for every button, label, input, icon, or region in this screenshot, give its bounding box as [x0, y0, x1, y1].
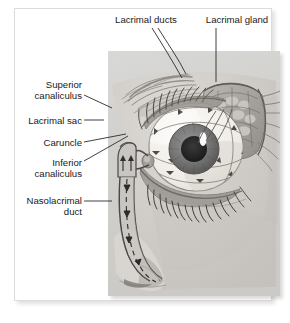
- label-inferior-canaliculus: Inferior canaliculus: [10, 157, 82, 180]
- label-lacrimal-sac: Lacrimal sac: [10, 115, 82, 126]
- label-lacrimal-gland: Lacrimal gland: [194, 14, 280, 25]
- label-caruncle: Caruncle: [10, 137, 82, 148]
- figure-card: [14, 8, 272, 301]
- figure-root: Lacrimal ducts Lacrimal gland Superior c…: [0, 0, 290, 323]
- label-superior-canaliculus: Superior canaliculus: [10, 79, 82, 102]
- corneal-highlight: [199, 132, 206, 146]
- illustration-plate: [108, 51, 280, 296]
- label-nasolacrimal-duct: Nasolacrimal duct: [6, 195, 82, 218]
- lacrimal-sac-body: [118, 143, 136, 178]
- anatomy-illustration: [108, 51, 280, 296]
- label-lacrimal-ducts: Lacrimal ducts: [104, 14, 188, 25]
